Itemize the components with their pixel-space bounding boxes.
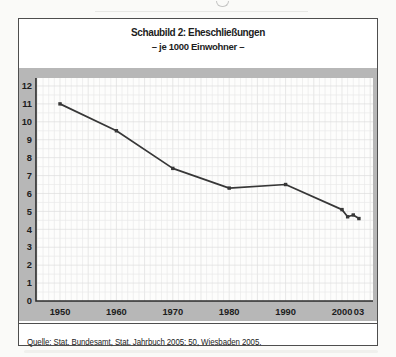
svg-text:3: 3 xyxy=(27,242,32,252)
source-citation: Quelle: Stat. Bundesamt, Stat. Jahrbuch … xyxy=(27,337,261,347)
scan-artifact-rule xyxy=(95,11,308,12)
figure-subtitle: – je 1000 Einwohner – xyxy=(19,40,377,54)
source-strip: Quelle: Stat. Bundesamt, Stat. Jahrbuch … xyxy=(19,323,377,350)
svg-text:1970: 1970 xyxy=(162,307,183,317)
svg-text:9: 9 xyxy=(27,135,32,145)
svg-text:1: 1 xyxy=(27,278,32,288)
svg-text:6: 6 xyxy=(27,189,32,199)
svg-text:11: 11 xyxy=(22,99,32,109)
svg-text:03: 03 xyxy=(354,307,364,317)
svg-text:10: 10 xyxy=(22,117,32,127)
figure-title-block: Schaubild 2: Eheschließungen – je 1000 E… xyxy=(19,19,377,68)
figure-box: Schaubild 2: Eheschließungen – je 1000 E… xyxy=(18,18,378,346)
scan-artifact-shadow xyxy=(24,350,378,353)
figure-title: Schaubild 2: Eheschließungen xyxy=(19,25,377,40)
svg-text:8: 8 xyxy=(27,153,32,163)
svg-text:1960: 1960 xyxy=(106,307,127,317)
svg-text:7: 7 xyxy=(27,171,32,181)
svg-text:5: 5 xyxy=(27,207,32,217)
svg-text:1980: 1980 xyxy=(219,307,240,317)
chart-area: 0123456789101112195019601970198019902000… xyxy=(19,68,377,321)
scan-artifact-glyph xyxy=(216,1,229,7)
svg-text:12: 12 xyxy=(22,81,32,91)
svg-text:1990: 1990 xyxy=(275,307,296,317)
chart-canvas: 0123456789101112195019601970198019902000… xyxy=(19,68,377,321)
svg-text:2000: 2000 xyxy=(332,307,353,317)
svg-text:2: 2 xyxy=(27,260,32,270)
svg-text:4: 4 xyxy=(27,225,33,235)
svg-text:1950: 1950 xyxy=(50,307,71,317)
svg-text:0: 0 xyxy=(27,296,32,306)
